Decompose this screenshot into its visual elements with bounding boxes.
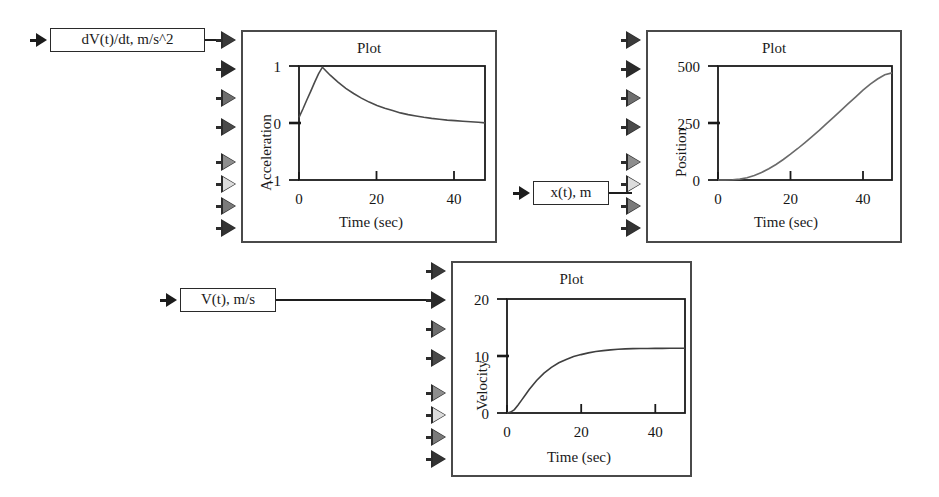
position-source-stub [513, 192, 520, 195]
svg-text:10: 10 [474, 349, 489, 365]
velocity-plot-block-port-1[interactable] [429, 262, 449, 282]
position-plot-block-port-3[interactable] [624, 89, 644, 109]
position-plot-block-port-1[interactable] [624, 31, 644, 51]
velocity-plot-block-port-3[interactable] [429, 320, 449, 340]
port-tail-icon [216, 205, 222, 208]
port-triangle-icon [433, 408, 445, 422]
port-tail-icon [426, 392, 432, 395]
svg-text:0: 0 [295, 191, 303, 207]
port-triangle-icon [433, 430, 445, 444]
acceleration-source-stub [30, 39, 37, 42]
port-tail-icon [621, 205, 627, 208]
wire-velocity-to-plot [276, 299, 435, 301]
position-plot-title: Plot [648, 40, 900, 57]
acceleration-plot-block-port-3[interactable] [219, 89, 239, 109]
velocity-x-axis-label: Time (sec) [471, 449, 687, 466]
velocity-plot-block-port-5[interactable] [429, 384, 449, 404]
acceleration-plot-block[interactable]: Plot Acceleration 1 0 -1 0 20 40 Time (s… [241, 30, 497, 243]
svg-text:40: 40 [447, 191, 462, 207]
port-tail-icon [216, 126, 222, 129]
port-tail-icon [426, 299, 432, 302]
velocity-source-stub [160, 299, 167, 302]
svg-text:-1: -1 [269, 173, 282, 189]
svg-text:0: 0 [693, 173, 701, 189]
port-triangle-icon [223, 91, 235, 105]
port-triangle-icon [628, 120, 640, 134]
velocity-signal-label[interactable]: V(t), m/s [180, 288, 276, 312]
svg-text:0: 0 [503, 424, 511, 440]
acceleration-signal-label[interactable]: dV(t)/dt, m/s^2 [50, 28, 205, 52]
svg-text:20: 20 [474, 292, 489, 308]
port-triangle-icon [223, 33, 235, 47]
svg-text:0: 0 [714, 191, 722, 207]
velocity-plot-block[interactable]: Plot Velocity 20 10 0 0 20 40 Time (sec) [451, 261, 692, 477]
port-triangle-icon [433, 351, 445, 365]
position-x-axis-label: Time (sec) [678, 214, 894, 231]
port-tail-icon [621, 161, 627, 164]
port-triangle-icon [433, 293, 445, 307]
acceleration-plot-block-port-1[interactable] [219, 31, 239, 51]
velocity-plot-block-port-6[interactable] [429, 406, 449, 426]
acceleration-plot-title: Plot [243, 40, 495, 57]
svg-text:20: 20 [783, 191, 798, 207]
svg-text:500: 500 [678, 59, 701, 75]
velocity-plot-block-port-4[interactable] [429, 349, 449, 369]
port-tail-icon [216, 161, 222, 164]
port-tail-icon [621, 183, 627, 186]
acceleration-plot-block-port-8[interactable] [219, 219, 239, 239]
svg-text:250: 250 [678, 116, 701, 132]
port-tail-icon [621, 39, 627, 42]
port-tail-icon [216, 183, 222, 186]
position-plot-block[interactable]: Plot Position 500 250 0 0 20 40 Time (se… [646, 30, 902, 243]
port-triangle-icon [223, 155, 235, 169]
port-tail-icon [621, 97, 627, 100]
acceleration-plot-block-port-2[interactable] [219, 60, 239, 80]
port-triangle-icon [628, 33, 640, 47]
acceleration-plot-block-port-7[interactable] [219, 197, 239, 217]
acceleration-x-axis-label: Time (sec) [263, 214, 479, 231]
velocity-plot-title: Plot [453, 271, 690, 288]
port-tail-icon [216, 39, 222, 42]
svg-text:0: 0 [274, 116, 282, 132]
port-triangle-icon [223, 199, 235, 213]
port-triangle-icon [223, 221, 235, 235]
svg-text:20: 20 [369, 191, 384, 207]
acceleration-plot-block-port-4[interactable] [219, 118, 239, 138]
port-triangle-icon [223, 120, 235, 134]
position-signal-label[interactable]: x(t), m [533, 181, 609, 205]
port-triangle-icon [433, 322, 445, 336]
port-triangle-icon [433, 452, 445, 466]
position-plot-block-port-5[interactable] [624, 153, 644, 173]
port-tail-icon [426, 328, 432, 331]
svg-text:0: 0 [482, 406, 490, 422]
svg-text:40: 40 [648, 424, 663, 440]
velocity-plot-block-port-8[interactable] [429, 450, 449, 470]
port-tail-icon [216, 68, 222, 71]
port-triangle-icon [628, 177, 640, 191]
position-plot-block-port-7[interactable] [624, 197, 644, 217]
acceleration-source-arrow [36, 33, 47, 47]
position-plot-block-port-4[interactable] [624, 118, 644, 138]
port-triangle-icon [433, 386, 445, 400]
port-tail-icon [621, 227, 627, 230]
position-plot-block-port-6[interactable] [624, 175, 644, 195]
position-plot-block-port-8[interactable] [624, 219, 644, 239]
port-tail-icon [426, 414, 432, 417]
velocity-plot-block-port-7[interactable] [429, 428, 449, 448]
port-tail-icon [426, 458, 432, 461]
port-tail-icon [621, 68, 627, 71]
port-triangle-icon [628, 91, 640, 105]
position-tick-labels: 500 250 0 0 20 40 [648, 56, 904, 216]
velocity-plot-block-port-2[interactable] [429, 291, 449, 311]
acceleration-plot-block-port-6[interactable] [219, 175, 239, 195]
port-tail-icon [426, 357, 432, 360]
svg-text:40: 40 [856, 191, 871, 207]
acceleration-plot-block-port-5[interactable] [219, 153, 239, 173]
svg-text:20: 20 [574, 424, 589, 440]
position-plot-block-port-2[interactable] [624, 60, 644, 80]
port-tail-icon [621, 126, 627, 129]
svg-text:1: 1 [274, 59, 282, 75]
port-tail-icon [216, 97, 222, 100]
port-triangle-icon [628, 155, 640, 169]
diagram-canvas: dV(t)/dt, m/s^2 Plot Acceleration 1 0 -1… [0, 0, 939, 497]
